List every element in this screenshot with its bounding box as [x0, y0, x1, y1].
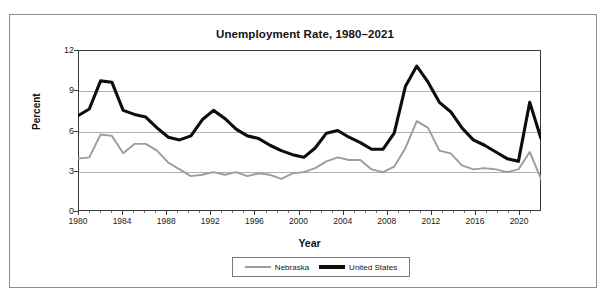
x-minor-tick	[530, 211, 531, 213]
x-minor-tick	[497, 211, 498, 213]
legend-line-icon-united-states	[319, 265, 345, 269]
x-axis-title: Year	[78, 237, 541, 249]
x-tick-mark-2000	[299, 211, 300, 215]
y-tick-label-0: 0	[54, 206, 74, 216]
legend-line-icon-nebraska	[245, 266, 271, 268]
x-minor-tick	[221, 211, 222, 213]
x-tick-label-2000: 2000	[289, 216, 308, 226]
series-line-nebraska	[78, 121, 541, 179]
x-tick-mark-2012	[431, 211, 432, 215]
x-minor-tick	[111, 211, 112, 213]
x-tick-mark-1988	[166, 211, 167, 215]
x-minor-tick	[442, 211, 443, 213]
x-minor-tick	[376, 211, 377, 213]
data-series-layer	[78, 50, 541, 211]
x-minor-tick	[409, 211, 410, 213]
y-axis-title: Percent	[31, 93, 42, 130]
x-minor-tick	[310, 211, 311, 213]
series-line-united-states	[78, 66, 541, 161]
x-minor-tick	[177, 211, 178, 213]
x-minor-tick	[188, 211, 189, 213]
x-minor-tick	[332, 211, 333, 213]
x-minor-tick	[243, 211, 244, 213]
x-minor-tick	[321, 211, 322, 213]
x-minor-tick	[398, 211, 399, 213]
x-tick-mark-1980	[78, 211, 79, 215]
x-tick-label-2004: 2004	[333, 216, 352, 226]
x-tick-label-1988: 1988	[157, 216, 176, 226]
x-minor-tick	[508, 211, 509, 213]
x-minor-tick	[232, 211, 233, 213]
x-tick-label-2020: 2020	[510, 216, 529, 226]
legend-item-united-states: United States	[319, 263, 397, 272]
legend-label-nebraska: Nebraska	[275, 263, 309, 272]
y-tick-label-6: 6	[54, 126, 74, 136]
x-tick-mark-2004	[343, 211, 344, 215]
x-tick-label-1984: 1984	[113, 216, 132, 226]
x-tick-mark-1996	[254, 211, 255, 215]
x-tick-label-2012: 2012	[421, 216, 440, 226]
x-minor-tick	[354, 211, 355, 213]
y-tick-label-9: 9	[54, 85, 74, 95]
x-minor-tick	[144, 211, 145, 213]
x-tick-label-1996: 1996	[245, 216, 264, 226]
y-tick-label-3: 3	[54, 166, 74, 176]
plot-wrapper: Percent 12 9 6 3 0	[0, 0, 610, 301]
chart-legend: Nebraska United States	[232, 257, 410, 277]
x-minor-tick	[288, 211, 289, 213]
x-tick-mark-1984	[122, 211, 123, 215]
x-minor-tick	[365, 211, 366, 213]
x-minor-tick	[100, 211, 101, 213]
x-tick-mark-2008	[387, 211, 388, 215]
x-minor-tick	[420, 211, 421, 213]
x-tick-mark-2020	[519, 211, 520, 215]
x-minor-tick	[266, 211, 267, 213]
x-minor-tick	[155, 211, 156, 213]
x-minor-tick	[486, 211, 487, 213]
x-minor-tick	[199, 211, 200, 213]
y-tick-label-12: 12	[54, 45, 74, 55]
x-minor-tick	[464, 211, 465, 213]
x-tick-mark-1992	[210, 211, 211, 215]
x-tick-label-2016: 2016	[466, 216, 485, 226]
x-tick-label-2008: 2008	[377, 216, 396, 226]
screenshot-page: Unemployment Rate, 1980–2021 Percent 12 …	[0, 0, 610, 301]
x-minor-tick	[453, 211, 454, 213]
x-minor-tick	[277, 211, 278, 213]
x-tick-label-1980: 1980	[69, 216, 88, 226]
legend-item-nebraska: Nebraska	[245, 263, 309, 272]
x-tick-mark-2016	[475, 211, 476, 215]
x-minor-tick	[133, 211, 134, 213]
x-tick-label-1992: 1992	[201, 216, 220, 226]
x-minor-tick	[89, 211, 90, 213]
legend-label-united-states: United States	[349, 263, 397, 272]
